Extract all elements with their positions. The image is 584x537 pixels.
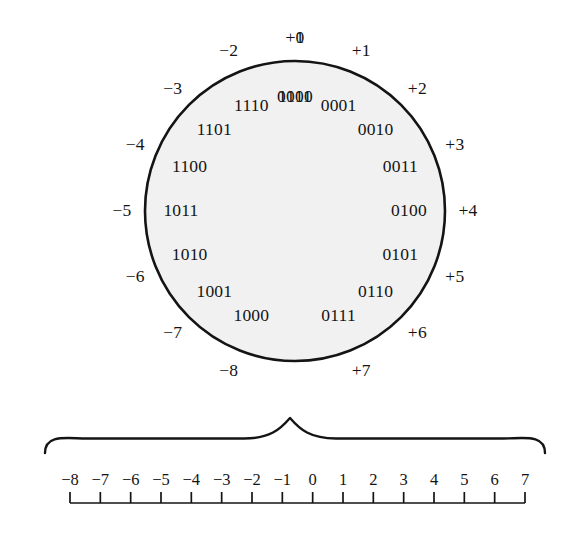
number-line-tick-label: −7 bbox=[92, 472, 110, 489]
number-line-tick-label: 7 bbox=[521, 472, 529, 489]
number-line-tick-label: −6 bbox=[122, 472, 140, 489]
circle-binary-label: 0001 bbox=[321, 97, 357, 115]
circle-decimal-label: +7 bbox=[352, 362, 371, 380]
circle-decimal-label: −6 bbox=[126, 268, 145, 286]
circle-decimal-label: +5 bbox=[445, 268, 464, 286]
circle-binary-label: 1001 bbox=[196, 283, 232, 301]
circle-binary-label: 0010 bbox=[358, 122, 394, 140]
circle-binary-label: 1000 bbox=[233, 308, 269, 326]
number-line-tick-label: −2 bbox=[243, 472, 261, 489]
number-line-tick-label: 5 bbox=[460, 472, 468, 489]
circle-binary-label: 1101 bbox=[197, 122, 232, 140]
number-line-group bbox=[70, 492, 525, 503]
circle-binary-label: 1100 bbox=[172, 159, 207, 177]
circle-decimal-label: +3 bbox=[445, 136, 464, 154]
number-line-tick-label: 4 bbox=[430, 472, 438, 489]
circle-binary-label: 1010 bbox=[172, 246, 208, 264]
circle-decimal-label: +2 bbox=[408, 80, 427, 98]
circle-decimal-label: −7 bbox=[163, 325, 182, 343]
number-line-tick-label: −3 bbox=[213, 472, 231, 489]
number-line-tick-label: 3 bbox=[400, 472, 408, 489]
circle-binary-label: 0110 bbox=[358, 283, 393, 301]
number-line-tick-label: 2 bbox=[369, 472, 377, 489]
curly-brace bbox=[45, 418, 545, 453]
circle-decimal-label: −5 bbox=[112, 202, 131, 220]
twos-complement-figure: 0000000100100011010001010110011110001001… bbox=[0, 0, 584, 537]
figure-canvas bbox=[0, 0, 584, 537]
brace-group bbox=[45, 418, 545, 453]
circle-binary-label: 1011 bbox=[163, 202, 198, 220]
circle-binary-label: 1111 bbox=[278, 88, 312, 106]
number-line-tick-label: 1 bbox=[339, 472, 347, 489]
circle-binary-label: 0011 bbox=[383, 159, 418, 177]
number-line-axis bbox=[70, 492, 525, 503]
number-line-tick-label: −1 bbox=[274, 472, 292, 489]
circle-decimal-label: +4 bbox=[458, 202, 477, 220]
circle-decimal-label: −1 bbox=[285, 29, 304, 47]
number-line-tick-label: −5 bbox=[152, 472, 170, 489]
circle-decimal-label: −4 bbox=[126, 136, 145, 154]
circle-binary-label: 0101 bbox=[382, 246, 418, 264]
circle-binary-label: 0111 bbox=[321, 308, 356, 326]
circle-decimal-label: −2 bbox=[219, 42, 238, 60]
number-line-tick-label: 6 bbox=[491, 472, 499, 489]
circle-binary-label: 1110 bbox=[234, 97, 269, 115]
number-line-tick-label: 0 bbox=[309, 472, 317, 489]
number-line-tick-label: −4 bbox=[183, 472, 201, 489]
circle-decimal-label: −3 bbox=[163, 80, 182, 98]
circle-decimal-label: +1 bbox=[352, 42, 371, 60]
number-line-tick-label: −8 bbox=[61, 472, 79, 489]
circle-decimal-label: −8 bbox=[219, 362, 238, 380]
circle-decimal-label: +6 bbox=[408, 325, 427, 343]
circle-binary-label: 0100 bbox=[391, 202, 427, 220]
